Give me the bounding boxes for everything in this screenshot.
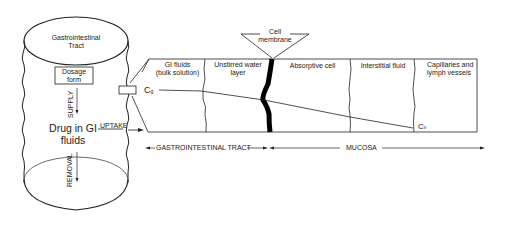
cylinder-bottom-back	[24, 157, 128, 180]
compartment-unstirred-water: Unstirred water layer	[208, 61, 268, 77]
removal-label: REMOVAL	[66, 153, 73, 187]
cg-label: Cg	[144, 86, 153, 95]
drug-in-gi-fluids-label: Drug in GI fluids	[40, 122, 106, 146]
concentration-gradient	[159, 90, 413, 128]
sample-box	[119, 86, 136, 94]
cylinder-left-wall	[22, 41, 25, 183]
cylinder-bottom-front	[24, 180, 128, 210]
region-mucosa: MUCOSA	[346, 144, 377, 152]
gi-tract-title: Gastrointestinal Tract	[46, 34, 106, 50]
divider-interstitial-capillaries	[413, 59, 415, 132]
cylinder-right-wall	[126, 41, 129, 183]
divider-cell-interstitial	[349, 59, 351, 132]
dosage-form-label: Dosage form	[55, 68, 93, 84]
compartment-absorptive-cell: Absorptive cell	[280, 62, 345, 70]
cv-label: Cv	[418, 123, 426, 131]
region-gi-tract: GASTROINTESTINAL TRACT	[156, 144, 251, 152]
compartment-gi-fluids: GI fluids (bulk solution)	[150, 61, 205, 77]
compartment-interstitial-fluid: Interstitial fluid	[354, 62, 412, 70]
compartment-capillaries: Capillaries and lymph vessels	[427, 61, 473, 77]
cell-membrane-label: Cell membrane	[255, 28, 295, 44]
uptake-label: UPTAKE	[100, 122, 128, 130]
supply-label: SUPPLY	[67, 91, 74, 118]
